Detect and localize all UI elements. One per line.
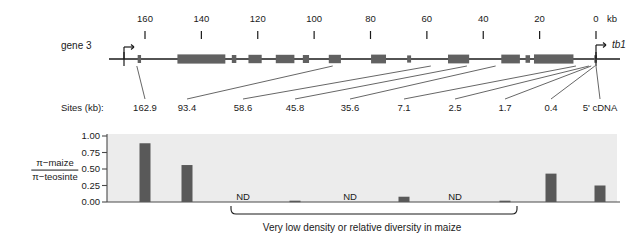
leader-line <box>295 66 467 99</box>
nd-annotation: ND <box>236 192 250 202</box>
exon-block <box>232 55 237 63</box>
exon-block <box>407 55 411 62</box>
site-value-label: 162.9 <box>133 103 157 113</box>
leader-lines <box>137 66 600 99</box>
axis-tick-label: 100 <box>306 14 322 24</box>
exon-block <box>248 55 261 63</box>
leader-line <box>243 66 431 99</box>
axis-tick-label: 20 <box>534 14 545 24</box>
gene-name-label: gene 3 <box>61 41 92 51</box>
axis-tick-label: 80 <box>365 14 376 24</box>
sites-row-label: Sites (kb): <box>61 103 104 113</box>
site-value-label: 2.5 <box>448 103 461 113</box>
site-value-label: 35.6 <box>341 103 360 113</box>
axis-tick-label: 40 <box>478 14 489 24</box>
figure-panel: 160140120100806040200 kb gene 3 tb1 Site… <box>0 0 634 239</box>
bar <box>546 174 557 202</box>
y-axis-tick-label: 0.50 <box>60 164 100 174</box>
exon-block <box>276 55 295 63</box>
y-axis-tick-label: 0.00 <box>60 197 100 207</box>
y-axis-tick-label: 1.00 <box>60 131 100 141</box>
site-value-label: 93.4 <box>178 103 197 113</box>
leader-line <box>596 66 600 99</box>
nd-annotation: ND <box>448 192 462 202</box>
axis-tick-label: 160 <box>137 14 153 24</box>
exon-block <box>534 54 573 63</box>
bar <box>290 201 301 203</box>
exon-block <box>329 55 341 63</box>
site-value-label: 1.7 <box>498 103 511 113</box>
bar <box>399 197 410 202</box>
site-value-label: 58.6 <box>234 103 253 113</box>
axis-tickmarks <box>145 31 596 39</box>
y-axis-tickmarks <box>102 136 107 202</box>
site-value-label: 45.8 <box>286 103 305 113</box>
bar <box>595 186 606 203</box>
axis-unit-label: kb <box>607 14 617 24</box>
axis-tick-label: 0 <box>593 14 598 24</box>
axis-tick-label: 140 <box>193 14 209 24</box>
y-axis-tick-label: 0.25 <box>60 181 100 191</box>
axis-tick-label: 120 <box>250 14 266 24</box>
exon-block <box>526 55 531 63</box>
leader-line <box>137 66 145 99</box>
range-bracket <box>231 206 517 214</box>
site-value-label: 0.4 <box>544 103 557 113</box>
leader-line <box>404 66 576 99</box>
gene3-start-arrow <box>124 45 134 67</box>
bar <box>140 143 151 202</box>
site-value-label: 5' cDNA <box>583 103 618 113</box>
bracket-caption: Very low density or relative diversity i… <box>263 223 461 233</box>
exon-block <box>501 55 520 64</box>
tb1-start-arrow <box>596 43 606 67</box>
exon-block <box>448 55 469 64</box>
exon-block <box>303 55 309 63</box>
exon-block <box>371 55 386 64</box>
bar <box>182 165 193 202</box>
tb1-label: tb1 <box>612 40 626 50</box>
y-axis-tick-label: 0.75 <box>60 148 100 158</box>
leader-line <box>551 66 595 99</box>
site-value-label: 7.1 <box>397 103 410 113</box>
exon-block <box>138 55 141 63</box>
exon-block <box>177 54 225 63</box>
bar <box>500 201 511 203</box>
nd-annotation: ND <box>343 192 357 202</box>
leader-line <box>187 66 333 99</box>
axis-tick-label: 60 <box>422 14 433 24</box>
